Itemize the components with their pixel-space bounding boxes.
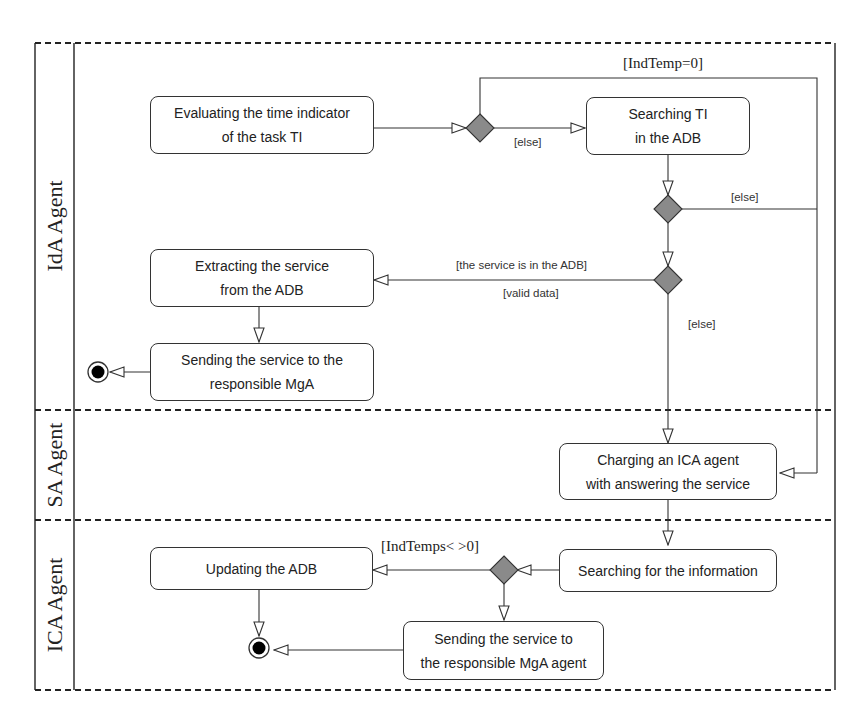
decision-diamond	[490, 556, 518, 584]
action-text: Searching TI	[628, 102, 707, 126]
lane-label-ida-agent: IdA Agent	[42, 180, 68, 271]
action-text: Sending the service to	[421, 627, 587, 651]
guard-service-in-adb: [the service is in the ADB]	[456, 259, 587, 271]
action-text: Extracting the service	[195, 254, 329, 278]
action-text: in the ADB	[628, 126, 707, 150]
action-sending-service-mga-agent: Sending the service to the responsible M…	[403, 621, 604, 680]
action-searching-information: Searching for the information	[559, 549, 777, 592]
guard-else: [else]	[731, 191, 759, 203]
guard-indtemps-nonzero: [IndTemps< >0]	[381, 538, 479, 555]
guard-indtemp-zero: [IndTemp=0]	[623, 55, 703, 72]
guard-else: [else]	[514, 136, 542, 148]
action-extracting-service: Extracting the service from the ADB	[150, 249, 374, 307]
final-node	[88, 362, 108, 382]
decision-diamond	[654, 195, 682, 223]
action-text: Charging an ICA agent	[586, 448, 750, 472]
activity-diagram: IdA Agent SA Agent ICA Agent Evaluating …	[0, 0, 864, 726]
action-text: the responsible MgA agent	[421, 651, 587, 675]
action-text: Updating the ADB	[206, 557, 317, 581]
action-charging-ica-agent: Charging an ICA agent with answering the…	[559, 443, 777, 500]
action-text: with answering the service	[586, 472, 750, 496]
final-node	[249, 638, 269, 658]
action-text: responsible MgA	[181, 372, 343, 396]
lane-label-sa-agent: SA Agent	[42, 423, 68, 508]
action-text: from the ADB	[195, 278, 329, 302]
action-sending-service-mga: Sending the service to the responsible M…	[150, 343, 374, 401]
action-text: Searching for the information	[578, 559, 758, 583]
action-text: Sending the service to the	[181, 348, 343, 372]
guard-else: [else]	[688, 318, 716, 330]
action-text: of the task TI	[174, 125, 350, 149]
action-updating-adb: Updating the ADB	[150, 547, 373, 590]
action-evaluate-time-indicator: Evaluating the time indicator of the tas…	[150, 96, 374, 154]
action-searching-ti: Searching TI in the ADB	[586, 97, 750, 155]
decision-nodes	[466, 114, 682, 584]
guard-valid-data: [valid data]	[503, 287, 559, 299]
action-text: Evaluating the time indicator	[174, 101, 350, 125]
decision-diamond	[466, 114, 494, 142]
lane-label-ica-agent: ICA Agent	[42, 558, 68, 653]
decision-diamond	[654, 266, 682, 294]
